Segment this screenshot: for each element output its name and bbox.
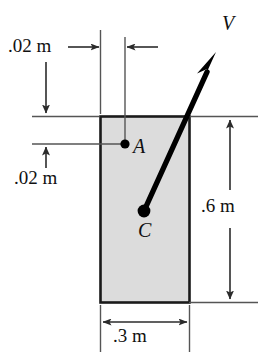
point-label-a: A bbox=[133, 136, 145, 156]
dimension-label-offset-horizontal: .02 m bbox=[8, 36, 51, 55]
point-label-c: C bbox=[138, 220, 151, 240]
velocity-vector-label: V bbox=[222, 13, 234, 33]
point-marker-c bbox=[138, 205, 151, 218]
point-marker-a bbox=[120, 139, 129, 148]
dimension-label-plate-height: .6 m bbox=[201, 196, 235, 215]
dimension-label-plate-width: .3 m bbox=[113, 326, 147, 345]
dimension-label-offset-vertical: .02 m bbox=[14, 168, 57, 187]
